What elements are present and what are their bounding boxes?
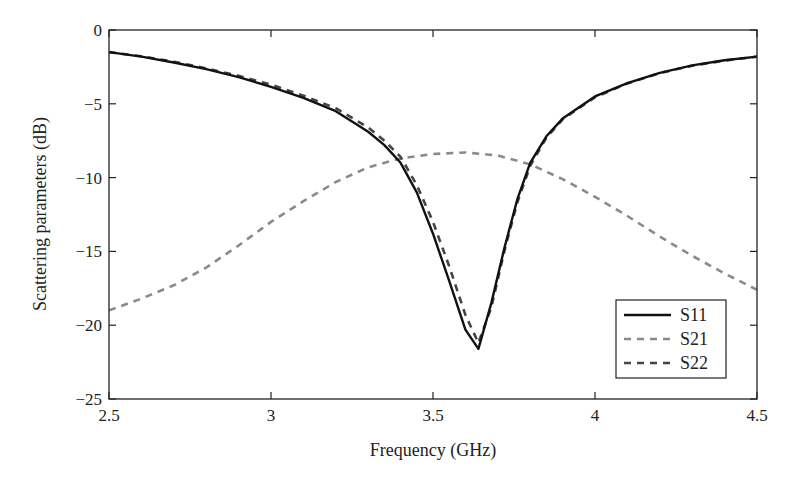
legend-label-s22: S22: [680, 353, 708, 373]
legend-label-s21: S21: [680, 329, 708, 349]
x-axis-label: Frequency (GHz): [370, 440, 496, 461]
x-tick-label: 4.5: [746, 406, 767, 425]
y-axis-label: Scattering parameters (dB): [30, 117, 51, 311]
legend-label-s11: S11: [680, 305, 707, 325]
y-tick-label: −10: [75, 169, 102, 188]
chart-canvas: 2.533.544.50−5−10−15−20−25 Frequency (GH…: [0, 0, 804, 487]
y-tick-label: −25: [75, 390, 102, 409]
y-tick-label: −15: [75, 242, 102, 261]
x-tick-label: 3: [267, 406, 276, 425]
series-line-s22: [109, 52, 757, 343]
x-tick-label: 3.5: [422, 406, 443, 425]
y-tick-label: 0: [94, 21, 103, 40]
x-tick-label: 4: [591, 406, 600, 425]
y-tick-label: −5: [84, 95, 102, 114]
y-tick-label: −20: [75, 316, 102, 335]
legend: S11 S21 S22: [616, 300, 726, 378]
